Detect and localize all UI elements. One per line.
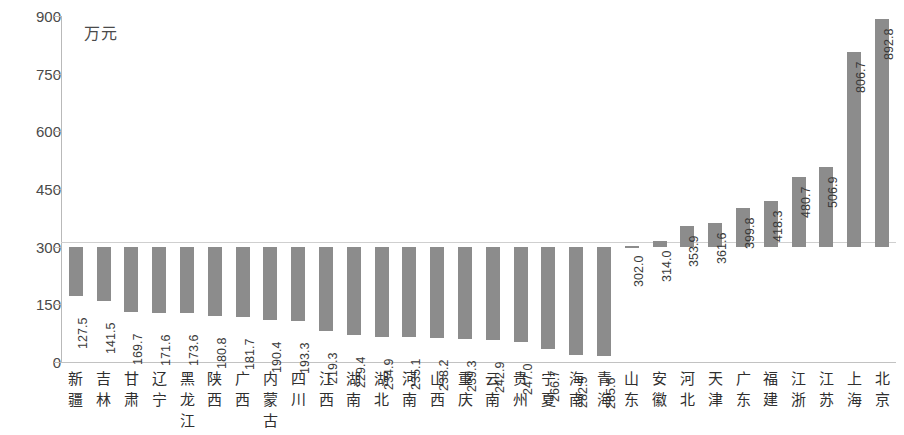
x-axis-category-label: 黑龙江: [173, 368, 201, 431]
bar-slot: 399.8: [729, 16, 757, 362]
x-axis-category-label: 贵州: [507, 368, 535, 410]
bar-value-label: 127.5: [76, 317, 90, 348]
bar-slot: 234.9: [368, 16, 396, 362]
bar-slot: 892.8: [868, 16, 896, 362]
bar-slot: 169.7: [118, 16, 146, 362]
bar-slot: 141.5: [90, 16, 118, 362]
x-axis-category-label: 陕西: [201, 368, 229, 410]
bar-slot: 314.0: [646, 16, 674, 362]
bar-slot: 806.7: [840, 16, 868, 362]
x-axis-category-label: 山西: [423, 368, 451, 410]
bar-slot: 238.2: [423, 16, 451, 362]
bar[interactable]: [458, 247, 472, 339]
y-axis-tick-mark: [54, 74, 61, 75]
bar[interactable]: [514, 247, 528, 342]
bar-value-label: 171.6: [159, 334, 173, 365]
bar-slot: 480.7: [785, 16, 813, 362]
bar-slot: 242.9: [479, 16, 507, 362]
x-axis-category-label: 四川: [284, 368, 312, 410]
x-axis-category-label: 内蒙古: [257, 368, 285, 431]
x-axis-category-label: 北京: [868, 368, 896, 410]
bar-value-label: 480.7: [799, 187, 813, 218]
x-axis-category-labels: 新疆吉林甘肃辽宁黑龙江陕西广西内蒙古四川江西湖南湖北河南山西重庆云南贵州宁夏海南…: [62, 368, 896, 435]
bar-slot: 506.9: [813, 16, 841, 362]
bar-value-label: 806.7: [854, 62, 868, 93]
bar-slot: 180.8: [201, 16, 229, 362]
bar-slot: 127.5: [62, 16, 90, 362]
bar-slot: 173.6: [173, 16, 201, 362]
bar[interactable]: [625, 246, 639, 248]
bar-slot: 266.7: [535, 16, 563, 362]
x-axis-category-label: 福建: [757, 368, 785, 410]
bar[interactable]: [375, 247, 389, 337]
bar-slot: 219.3: [312, 16, 340, 362]
bar-value-label: 180.8: [215, 338, 229, 369]
y-axis-tick-mark: [54, 247, 61, 248]
x-axis-category-label: 江苏: [813, 368, 841, 410]
x-axis-category-label: 吉林: [90, 368, 118, 410]
x-axis-category-label: 江西: [312, 368, 340, 410]
bar-slot: 247.0: [507, 16, 535, 362]
bar-value-label: 173.6: [187, 335, 201, 366]
bar[interactable]: [347, 247, 361, 335]
bar-value-label: 506.9: [826, 177, 840, 208]
x-axis-category-label: 青海: [590, 368, 618, 410]
bar[interactable]: [569, 247, 583, 356]
bar-value-label: 141.5: [104, 323, 118, 354]
x-axis-category-label: 江浙: [785, 368, 813, 410]
bar-slot: 418.3: [757, 16, 785, 362]
bar-slot: 285.6: [590, 16, 618, 362]
bar[interactable]: [263, 247, 277, 320]
bar[interactable]: [486, 247, 500, 340]
y-axis-tick-mark: [54, 131, 61, 132]
x-axis-category-label: 云南: [479, 368, 507, 410]
bar-slot: 282.5: [562, 16, 590, 362]
bar-slot: 235.1: [396, 16, 424, 362]
bar-value-label: 302.0: [632, 256, 646, 287]
x-axis-category-label: 广东: [729, 368, 757, 410]
bar[interactable]: [597, 247, 611, 357]
x-axis-category-label: 安徽: [646, 368, 674, 410]
bar[interactable]: [291, 247, 305, 321]
x-axis-category-label: 甘肃: [118, 368, 146, 410]
bar-value-label: 892.8: [882, 28, 896, 59]
x-axis-category-label: 海南: [562, 368, 590, 410]
x-axis-category-label: 重庆: [451, 368, 479, 410]
bar-slot: 181.7: [229, 16, 257, 362]
bar-slot: 361.6: [701, 16, 729, 362]
x-axis-category-label: 天津: [701, 368, 729, 410]
bar[interactable]: [236, 247, 250, 317]
bar-chart: 万元 9007506004503001500 127.5141.5169.717…: [0, 0, 904, 435]
bar[interactable]: [653, 241, 667, 246]
bar-value-label: 181.7: [243, 338, 257, 369]
bar-value-label: 353.9: [687, 236, 701, 267]
bar-value-label: 361.6: [715, 233, 729, 264]
y-axis-tick-mark: [54, 362, 61, 363]
bar[interactable]: [319, 247, 333, 331]
bar[interactable]: [124, 247, 138, 312]
bar[interactable]: [152, 247, 166, 313]
bar-slot: 353.9: [674, 16, 702, 362]
bar[interactable]: [97, 247, 111, 301]
x-axis-category-label: 广西: [229, 368, 257, 410]
bar[interactable]: [430, 247, 444, 339]
bar[interactable]: [402, 247, 416, 337]
x-axis-category-label: 上海: [840, 368, 868, 410]
x-axis-category-label: 湖北: [368, 368, 396, 410]
bar[interactable]: [180, 247, 194, 314]
x-axis-category-label: 河南: [396, 368, 424, 410]
bar-slot: 190.4: [257, 16, 285, 362]
x-axis-category-label: 辽宁: [145, 368, 173, 410]
y-axis-tick-mark: [54, 189, 61, 190]
bar-value-label: 399.8: [743, 218, 757, 249]
bar-slot: 171.6: [145, 16, 173, 362]
x-axis-category-label: 河北: [674, 368, 702, 410]
bar-value-label: 418.3: [771, 211, 785, 242]
bar-slot: 302.0: [618, 16, 646, 362]
plot-area: 127.5141.5169.7171.6173.6180.8181.7190.4…: [62, 16, 896, 362]
bar[interactable]: [69, 247, 83, 296]
y-axis-tick-mark: [54, 304, 61, 305]
bar[interactable]: [541, 247, 555, 350]
x-axis-category-label: 湖南: [340, 368, 368, 410]
bar[interactable]: [208, 247, 222, 317]
